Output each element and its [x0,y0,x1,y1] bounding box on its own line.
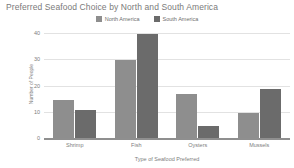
chart-container: Preferred Seafood Choice by North and So… [0,0,294,168]
y-tick-label: 0 [37,135,40,141]
y-tick-label: 30 [34,56,40,62]
bar-group [229,29,291,139]
y-tick-label: 10 [34,109,40,115]
bar[interactable] [260,89,281,139]
x-tick-label: Shrimp [44,142,106,148]
x-tick-label: Oysters [167,142,229,148]
bar[interactable] [137,34,158,139]
y-tick-label: 40 [34,30,40,36]
bar-groups [44,29,290,139]
x-tick-label: Mussels [229,142,291,148]
chart-title: Preferred Seafood Choice by North and So… [6,2,218,12]
bar[interactable] [75,110,96,139]
bar[interactable] [53,100,74,139]
x-axis-title: Type of Seafood Preferred [44,156,290,162]
bar-group [167,29,229,139]
legend-label-north-america: North America [105,16,140,22]
bar[interactable] [115,60,136,139]
bar[interactable] [176,94,197,139]
x-tick-labels: ShrimpFishOystersMussels [44,142,290,148]
plot-background: 010203040 [44,29,290,140]
x-tick-label: Fish [106,142,168,148]
legend-item-north-america: North America [96,16,140,22]
legend-label-south-america: South America [163,16,199,22]
legend-swatch-north-america [96,16,102,22]
plot-area: 010203040 [44,29,290,140]
legend-item-south-america: South America [154,16,199,22]
legend-swatch-south-america [154,16,160,22]
bar[interactable] [238,113,259,139]
bar-group [106,29,168,139]
bar-group [44,29,106,139]
chart-legend: North America South America [0,16,294,22]
x-axis-line [44,138,290,139]
y-tick-label: 20 [34,83,40,89]
